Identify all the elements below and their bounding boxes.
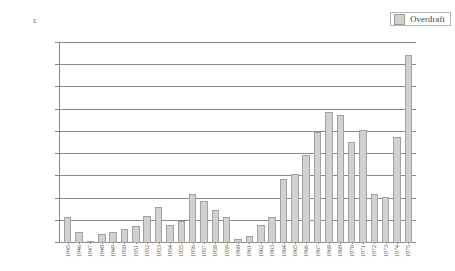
x-label-slot: 1945: [62, 244, 73, 271]
bar-slot: [187, 42, 198, 243]
x-label-slot: 1961: [244, 244, 255, 271]
bar: [405, 55, 412, 243]
x-axis-tick-mark: [136, 242, 137, 244]
x-axis-tick-mark: [113, 242, 114, 244]
x-axis-tick-mark: [68, 242, 69, 244]
x-axis-tick-label: 1953: [156, 245, 162, 257]
bar-slot: [153, 42, 164, 243]
bar-slot: [369, 42, 380, 243]
x-axis-tick-label: 1964: [281, 245, 287, 257]
x-axis-tick-label: 1949: [110, 245, 116, 257]
x-axis-tick-label: 1968: [326, 245, 332, 257]
x-axis-tick-label: 1969: [337, 245, 343, 257]
x-axis-tick-mark: [408, 242, 409, 244]
x-axis-tick-label: 1950: [121, 245, 127, 257]
bar: [325, 112, 332, 243]
x-label-slot: 1950: [119, 244, 130, 271]
x-axis-tick-label: 1945: [65, 245, 71, 257]
bar-series-overdraft: [59, 42, 416, 243]
x-axis-tick-mark: [352, 242, 353, 244]
x-axis-tick-label: 1965: [292, 245, 298, 257]
x-label-slot: 1955: [176, 244, 187, 271]
x-label-slot: 1956: [187, 244, 198, 271]
bar: [280, 179, 287, 243]
bar-slot: [301, 42, 312, 243]
bar-slot: [346, 42, 357, 243]
x-axis-tick-mark: [193, 242, 194, 244]
bar: [348, 142, 355, 243]
bar: [223, 217, 230, 243]
x-axis-tick-label: 1951: [133, 245, 139, 257]
x-label-slot: 1954: [164, 244, 175, 271]
x-axis-tick-mark: [329, 242, 330, 244]
x-label-slot: 1962: [255, 244, 266, 271]
x-axis-tick-mark: [170, 242, 171, 244]
bar: [371, 194, 378, 243]
bar: [337, 115, 344, 243]
x-axis-tick-label: 1959: [224, 245, 230, 257]
x-label-slot: 1951: [130, 244, 141, 271]
x-axis-tick-mark: [227, 242, 228, 244]
x-axis-tick-mark: [284, 242, 285, 244]
bar: [302, 155, 309, 243]
x-label-slot: 1957: [198, 244, 209, 271]
x-axis-tick-label: 1956: [190, 245, 196, 257]
bar-slot: [312, 42, 323, 243]
bar: [268, 217, 275, 243]
y-axis-unit-label: £: [33, 17, 37, 25]
x-axis-tick-mark: [79, 242, 80, 244]
x-label-slot: 1952: [142, 244, 153, 271]
x-axis-tick-mark: [306, 242, 307, 244]
x-label-slot: 1969: [335, 244, 346, 271]
bar: [166, 225, 173, 243]
x-axis-tick-mark: [215, 242, 216, 244]
bar: [212, 210, 219, 243]
x-axis-tick-mark: [318, 242, 319, 244]
overdraft-bar-chart: £ Overdraft 1800000016000000140000001200…: [0, 0, 455, 271]
x-label-slot: 1964: [278, 244, 289, 271]
x-axis-labels: 1945194619471948194919501951195219531954…: [59, 244, 416, 271]
x-axis-tick-mark: [363, 242, 364, 244]
x-axis-tick-mark: [238, 242, 239, 244]
x-axis-tick-label: 1973: [383, 245, 389, 257]
x-axis-tick-mark: [295, 242, 296, 244]
x-axis-tick-mark: [124, 242, 125, 244]
x-axis-tick-mark: [102, 242, 103, 244]
legend-label-overdraft: Overdraft: [410, 14, 445, 24]
x-label-slot: 1959: [221, 244, 232, 271]
x-axis-tick-label: 1967: [315, 245, 321, 257]
x-axis-tick-label: 1972: [371, 245, 377, 257]
bar-slot: [164, 42, 175, 243]
x-axis-tick-label: 1975: [405, 245, 411, 257]
bar: [132, 226, 139, 243]
x-axis-tick-label: 1955: [178, 245, 184, 257]
x-label-slot: 1966: [301, 244, 312, 271]
x-axis-tick-mark: [374, 242, 375, 244]
bar-slot: [403, 42, 414, 243]
bar-slot: [232, 42, 243, 243]
bar-slot: [198, 42, 209, 243]
x-axis-tick-label: 1974: [394, 245, 400, 257]
x-axis-tick-mark: [181, 242, 182, 244]
x-axis-tick-mark: [159, 242, 160, 244]
legend-swatch-overdraft: [394, 14, 405, 25]
x-axis-tick-label: 1954: [167, 245, 173, 257]
x-label-slot: 1947: [85, 244, 96, 271]
bar: [121, 229, 128, 243]
bar-slot: [323, 42, 334, 243]
x-label-slot: 1946: [73, 244, 84, 271]
x-label-slot: 1971: [357, 244, 368, 271]
bar-slot: [130, 42, 141, 243]
bar-slot: [96, 42, 107, 243]
bar: [257, 225, 264, 243]
bar: [143, 216, 150, 243]
bar: [200, 201, 207, 243]
x-axis-tick-label: 1966: [303, 245, 309, 257]
x-label-slot: 1948: [96, 244, 107, 271]
x-label-slot: 1953: [153, 244, 164, 271]
bar-slot: [221, 42, 232, 243]
x-axis-tick-label: 1962: [258, 245, 264, 257]
bar-slot: [289, 42, 300, 243]
bar: [359, 130, 366, 243]
x-label-slot: 1958: [210, 244, 221, 271]
